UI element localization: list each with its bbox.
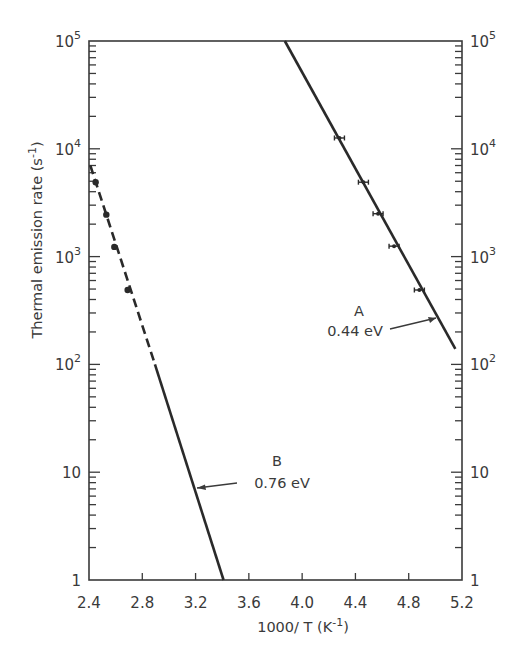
y-tick-label-right: 103	[470, 245, 496, 267]
y-tick-label-left: 1	[71, 572, 81, 590]
y-tick-label-right: 1	[470, 572, 480, 590]
y-tick-label-right: 104	[470, 137, 496, 159]
plot-frame	[89, 41, 462, 580]
y-axis-title: Thermal emission rate (s-1)	[26, 141, 45, 339]
data-point-b	[92, 179, 98, 185]
x-tick-label: 4.8	[397, 594, 421, 612]
arrowhead-icon	[428, 317, 436, 323]
x-tick-label: 3.2	[184, 594, 208, 612]
annotation-a-energy: 0.44 eV	[327, 323, 383, 339]
data-point-a	[361, 180, 365, 184]
y-tick-label-left: 10	[62, 464, 81, 482]
annotation-a: A 0.44 eV	[327, 303, 436, 339]
x-axis-title: 1000/ T (K-1)	[257, 616, 349, 635]
plot-axes	[89, 41, 462, 580]
y-tick-label-right: 102	[470, 352, 496, 374]
y-tick-label-left: 104	[55, 137, 81, 159]
y-tick-label-right: 10	[470, 464, 489, 482]
data-point-b	[124, 287, 130, 293]
x-tick-label: 4.4	[343, 594, 367, 612]
y-tick-label-left: 102	[55, 352, 81, 374]
y-tick-label-right: 105	[470, 29, 496, 51]
data-point-a	[417, 288, 421, 292]
y-tick-label-left: 103	[55, 245, 81, 267]
data-point-b	[103, 211, 109, 217]
arrhenius-plot: 2.42.83.23.64.04.44.85.21110101021021031…	[0, 0, 512, 658]
annotation-a-label: A	[354, 303, 364, 319]
x-tick-label: 2.8	[130, 594, 154, 612]
fit-line-b-solid	[155, 364, 224, 580]
fit-line-b-dashed	[90, 165, 155, 364]
data-point-a	[337, 136, 341, 140]
x-tick-label: 3.6	[237, 594, 261, 612]
annotation-b-energy: 0.76 eV	[254, 475, 310, 491]
x-tick-label: 4.0	[290, 594, 314, 612]
data-point-b	[111, 244, 117, 250]
annotation-b-label: B	[272, 453, 282, 469]
x-tick-label: 2.4	[77, 594, 101, 612]
x-tick-label: 5.2	[450, 594, 474, 612]
fit-line-a	[285, 41, 456, 349]
data-series	[90, 41, 455, 580]
data-point-a	[392, 244, 396, 248]
data-point-a	[376, 212, 380, 216]
y-tick-label-left: 105	[55, 29, 81, 51]
axis-ticks	[89, 46, 462, 580]
annotation-b: B 0.76 eV	[197, 453, 310, 491]
